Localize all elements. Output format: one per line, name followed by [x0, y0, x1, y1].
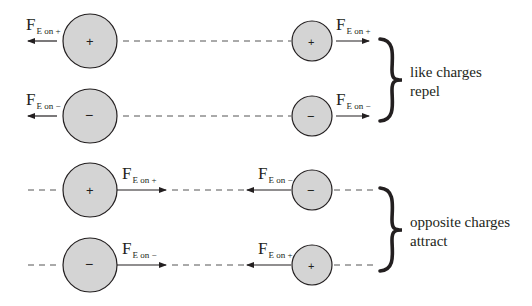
caption-line: repel [410, 82, 482, 101]
charge-sign: + [86, 32, 94, 51]
force-label-left: FE on + [26, 16, 61, 33]
force-subscript: E on − [132, 250, 156, 260]
force-subscript: E on − [346, 101, 370, 111]
force-subscript: E on + [346, 26, 370, 36]
force-symbol: F [258, 239, 267, 258]
row-like-negative [28, 89, 369, 143]
force-subscript: E on − [36, 101, 60, 111]
force-subscript: E on − [268, 175, 292, 185]
force-symbol: F [336, 90, 345, 109]
brace-like-charges [380, 39, 402, 121]
force-symbol: F [26, 15, 35, 34]
force-symbol: F [122, 239, 131, 258]
charge-sign: + [86, 181, 94, 200]
force-subscript: E on + [268, 250, 292, 260]
force-symbol: F [336, 15, 345, 34]
charge-sign: − [307, 107, 315, 126]
force-label-right-charge: FE on − [258, 165, 293, 182]
charge-sign: − [307, 181, 315, 200]
force-label-right: FE on + [336, 16, 371, 33]
force-label-right-charge: FE on + [258, 240, 293, 257]
force-symbol: F [258, 164, 267, 183]
force-label-left-charge: FE on + [122, 165, 157, 182]
force-subscript: E on + [36, 26, 60, 36]
caption-line: opposite charges [410, 213, 510, 232]
row-opposite-2 [28, 238, 378, 292]
caption-line: attract [410, 232, 510, 251]
force-symbol: F [26, 90, 35, 109]
caption-like-charges: like charges repel [410, 63, 482, 101]
force-symbol: F [122, 164, 131, 183]
force-label-right: FE on − [336, 91, 371, 108]
force-label-left-charge: FE on − [122, 240, 157, 257]
row-opposite-1 [28, 163, 378, 217]
row-like-positive [28, 14, 369, 68]
charge-sign: − [85, 255, 93, 274]
brace-opposite-charges [380, 188, 402, 271]
charge-sign: + [308, 33, 314, 52]
charge-sign: + [308, 257, 314, 276]
force-subscript: E on + [132, 175, 156, 185]
charge-sign: − [85, 106, 93, 125]
force-label-left: FE on − [26, 91, 61, 108]
caption-line: like charges [410, 63, 482, 82]
charges-diagram [0, 0, 532, 306]
caption-opposite-charges: opposite charges attract [410, 213, 510, 251]
